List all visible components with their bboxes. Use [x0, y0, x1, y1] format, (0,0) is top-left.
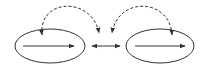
right-dashed-arc [112, 6, 172, 35]
left-dashed-arc [42, 6, 99, 35]
diagram-canvas [0, 0, 205, 69]
